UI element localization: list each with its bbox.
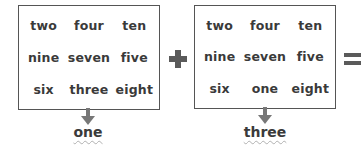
grid-cell: eight: [112, 73, 157, 105]
grid-cell: seven: [242, 41, 287, 72]
grid-cell: three: [66, 73, 111, 105]
grid-cell: two: [197, 10, 242, 41]
word-grid-2: two four ten nine seven five six one eig…: [194, 5, 336, 109]
word-grid-1-cells: two four ten nine seven five six three e…: [19, 6, 159, 109]
grid-cell: ten: [112, 10, 157, 42]
grid-cell: four: [242, 10, 287, 41]
equals-icon: [344, 51, 361, 67]
grid-cell: four: [66, 10, 111, 42]
grid-cell: five: [288, 41, 333, 72]
plus-icon: [169, 50, 187, 68]
grid-cell: two: [21, 10, 66, 42]
output-word: three: [244, 124, 287, 140]
grid-cell: ten: [288, 10, 333, 41]
grid-cell: six: [21, 73, 66, 105]
grid-cell: nine: [21, 42, 66, 74]
grid-cell: six: [197, 73, 242, 104]
grid-cell: eight: [288, 73, 333, 104]
grid-cell: one: [242, 73, 287, 104]
grid-1-output: one: [60, 124, 116, 140]
grid-2-output: three: [233, 124, 297, 140]
grid-cell: seven: [66, 42, 111, 74]
grid-cell: five: [112, 42, 157, 74]
word-grid-1: two four ten nine seven five six three e…: [18, 5, 160, 110]
word-grid-2-cells: two four ten nine seven five six one eig…: [195, 6, 335, 108]
grid-cell: nine: [197, 41, 242, 72]
output-word: one: [73, 124, 102, 140]
